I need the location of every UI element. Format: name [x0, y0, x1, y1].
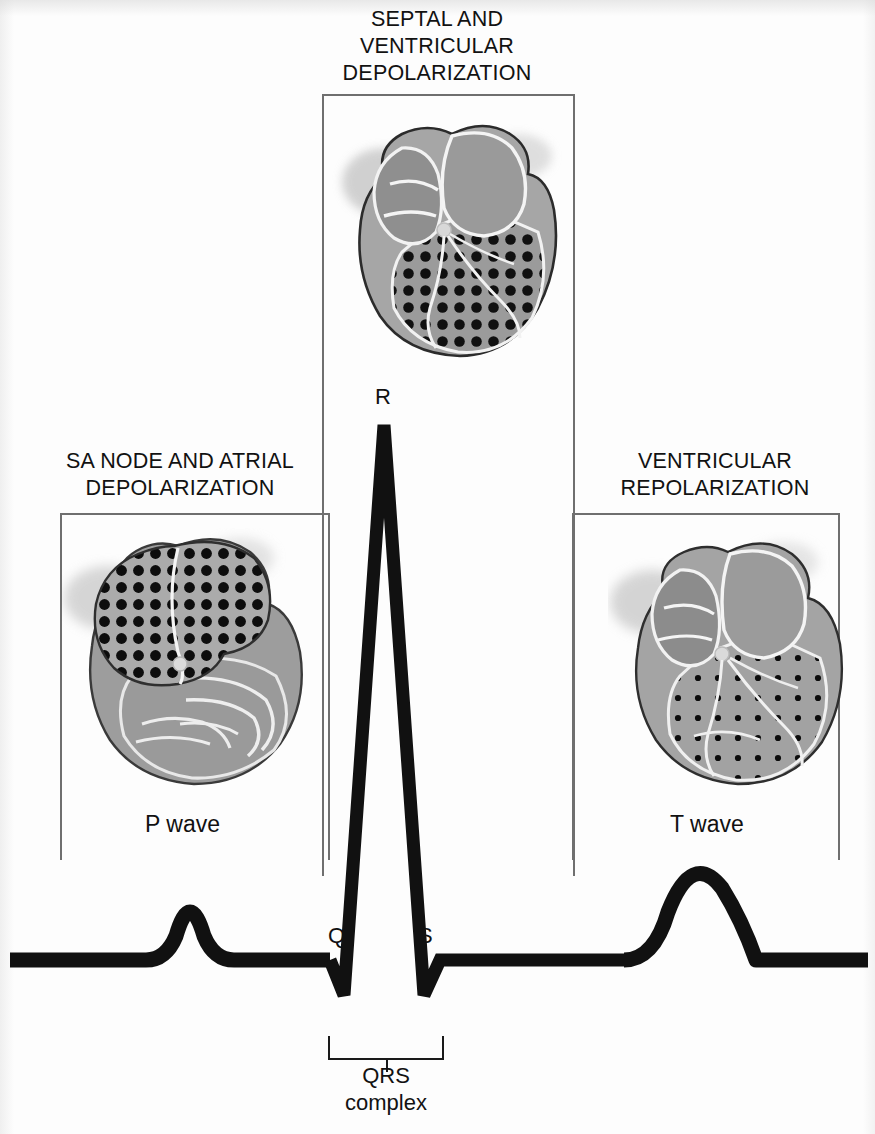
ecg-conduction-figure: SEPTAL AND VENTRICULAR DEPOLARIZATION	[0, 0, 875, 1134]
label-s-wave: S	[418, 924, 433, 948]
heart-diagram-center	[332, 112, 564, 360]
label-q-wave: Q	[328, 924, 345, 948]
qrs-bracket-right-leg	[442, 1036, 444, 1060]
ecg-waveform	[0, 380, 875, 1020]
qrs-complex-bracket	[328, 1036, 444, 1060]
panel-caption-septal-ventricular-depolarization: SEPTAL AND VENTRICULAR DEPOLARIZATION	[262, 6, 612, 87]
bracket-center-top-rule	[322, 94, 575, 96]
label-t-wave: T wave	[670, 812, 744, 836]
qrs-bracket-left-leg	[328, 1036, 330, 1060]
label-r-wave: R	[375, 385, 391, 409]
label-qrs-complex: QRS complex	[306, 1062, 466, 1116]
label-p-wave: P wave	[145, 812, 220, 836]
